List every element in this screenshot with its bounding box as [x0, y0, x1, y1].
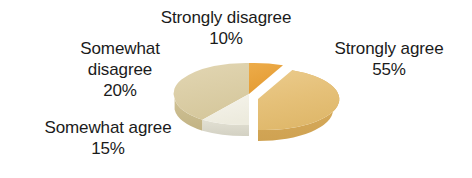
slice-label-somewhat-disagree-line2: disagree: [88, 60, 152, 79]
slice-label-somewhat-agree: Somewhat agree 15%: [24, 117, 192, 159]
slice-label-somewhat-disagree: Somewhat disagree 20%: [58, 38, 182, 101]
pie-chart-figure: Strongly disagree 10% Strongly agree 55%…: [0, 0, 472, 178]
slice-label-strongly-agree-text: Strongly agree: [334, 39, 443, 58]
slice-value-somewhat-disagree: 20%: [58, 80, 182, 101]
slice-value-strongly-agree: 55%: [314, 59, 464, 80]
slice-value-somewhat-agree: 15%: [24, 138, 192, 159]
slice-label-somewhat-disagree-line1: Somewhat: [80, 39, 160, 58]
slice-label-somewhat-agree-text: Somewhat agree: [44, 118, 171, 137]
slice-label-strongly-agree: Strongly agree 55%: [314, 38, 464, 80]
slice-label-strongly-disagree-text: Strongly disagree: [161, 8, 292, 27]
slice-strongly-agree: [258, 70, 339, 141]
